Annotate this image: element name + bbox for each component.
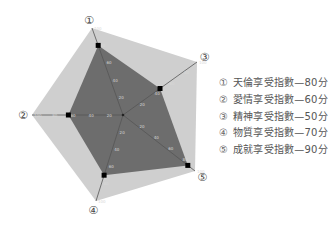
tick-label: 60 bbox=[70, 113, 76, 118]
legend-item: ③精神享受指數—50分 bbox=[219, 109, 328, 126]
tick-label: 20 bbox=[119, 95, 125, 100]
legend-item: ⑤成就享受指數—90分 bbox=[219, 142, 328, 159]
axis-marker-label: ③ bbox=[199, 51, 209, 64]
tick-label: 20 bbox=[120, 130, 126, 135]
tick-label: 20 bbox=[139, 124, 145, 129]
axis-marker-label: ① bbox=[84, 14, 94, 27]
tick-label: 60 bbox=[169, 81, 175, 86]
legend-marker: ③ bbox=[219, 109, 233, 126]
axis-marker-label: ④ bbox=[88, 204, 98, 217]
axis-marker-label: ② bbox=[18, 109, 28, 122]
data-point bbox=[158, 86, 163, 91]
tick-label: 40 bbox=[89, 113, 95, 118]
legend-marker: ① bbox=[219, 75, 233, 92]
tick-label: 40 bbox=[114, 147, 120, 152]
tick-label: 100 bbox=[34, 113, 42, 118]
legend-item: ④物質享受指數—70分 bbox=[219, 125, 328, 142]
legend-text: 精神享受指數—50分 bbox=[233, 111, 328, 122]
tick-label: 20 bbox=[107, 113, 113, 118]
legend-text: 物質享受指數—70分 bbox=[233, 127, 328, 138]
legend-text: 成就享受指數—90分 bbox=[233, 144, 328, 155]
tick-label: 80 bbox=[103, 181, 109, 186]
legend-text: 愛情享受指數—60分 bbox=[233, 94, 328, 105]
legend-text: 天倫享受指數—80分 bbox=[233, 77, 328, 88]
tick-label: 80 bbox=[183, 157, 189, 162]
tick-label: 40 bbox=[155, 91, 161, 96]
tick-label: 80 bbox=[52, 113, 58, 118]
tick-label: 80 bbox=[184, 70, 190, 75]
tick-label: 60 bbox=[109, 164, 115, 169]
tick-label: 100 bbox=[94, 26, 102, 31]
tick-label: 20 bbox=[140, 102, 146, 107]
legend: ①天倫享受指數—80分 ②愛情享受指數—60分 ③精神享受指數—50分 ④物質享… bbox=[219, 75, 328, 159]
tick-label: 80 bbox=[100, 43, 106, 48]
legend-marker: ④ bbox=[219, 125, 233, 142]
data-point bbox=[185, 163, 190, 168]
tick-label: 100 bbox=[98, 199, 106, 204]
tick-label: 40 bbox=[154, 135, 160, 140]
legend-item: ①天倫享受指數—80分 bbox=[219, 75, 328, 92]
axis-marker-label: ⑤ bbox=[197, 171, 207, 184]
legend-marker: ⑤ bbox=[219, 142, 233, 159]
data-point bbox=[102, 173, 107, 178]
tick-label: 40 bbox=[113, 78, 119, 83]
legend-item: ②愛情享受指數—60分 bbox=[219, 92, 328, 109]
data-point bbox=[66, 113, 71, 118]
center-dot bbox=[122, 114, 125, 117]
data-point bbox=[96, 43, 101, 48]
legend-marker: ② bbox=[219, 92, 233, 109]
tick-label: 60 bbox=[168, 146, 174, 151]
tick-label: 60 bbox=[106, 60, 112, 65]
